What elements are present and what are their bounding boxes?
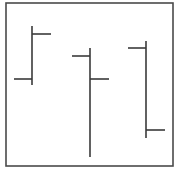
ohlc-bar xyxy=(14,26,51,85)
ohlc-bar xyxy=(72,48,109,157)
ohlc-bars xyxy=(14,26,165,157)
ohlc-bar xyxy=(128,41,165,138)
ohlc-chart xyxy=(0,0,179,174)
